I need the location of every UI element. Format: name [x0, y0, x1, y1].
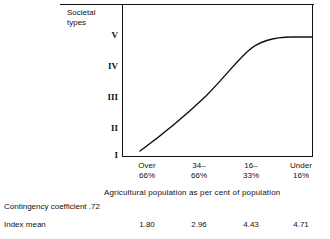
figure-container: Societal types V IV III II I Over 66% 34… [0, 0, 330, 239]
x-tick-label-3: 16– 33% [228, 161, 274, 181]
contingency-row: Contingency coefficient .72 [4, 201, 330, 213]
x-tick-label-4: Under 16% [278, 161, 324, 181]
data-series-line [140, 37, 312, 151]
x-axis-title: Agricultural population as per cent of p… [104, 188, 330, 198]
y-tick-label-4: IV [96, 62, 118, 71]
index-mean-value-2: 2.96 [176, 219, 222, 231]
x-tick-label-1: Over 66% [124, 161, 170, 181]
x-tick-label-2: 34– 66% [176, 161, 222, 181]
index-mean-label: Index mean [4, 219, 46, 231]
contingency-coefficient-label: Contingency coefficient .72 [4, 201, 100, 213]
y-axis-title: Societal types [67, 8, 119, 28]
index-mean-value-4: 4.71 [278, 219, 324, 231]
y-tick-label-5: V [96, 31, 118, 40]
index-mean-row: Index mean 1.80 2.96 4.43 4.71 [4, 219, 330, 231]
y-tick-label-3: III [96, 93, 118, 102]
index-mean-value-3: 4.43 [228, 219, 274, 231]
y-tick-label-2: II [96, 124, 118, 133]
index-mean-value-1: 1.80 [124, 219, 170, 231]
y-tick-label-1: I [96, 151, 118, 160]
line-chart-plot [122, 4, 314, 158]
